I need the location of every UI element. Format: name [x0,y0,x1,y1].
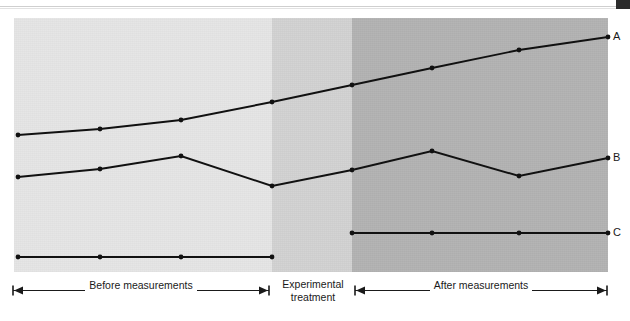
data-point [270,255,275,260]
data-point [270,184,275,189]
phase-annotations: Before measurements Experimental treatme… [0,278,630,321]
series-label-a: A [613,31,621,42]
figure-root: A B C Before measurements Ex [0,0,630,321]
data-point [16,133,21,138]
series-c [16,231,611,260]
data-point [606,156,611,161]
annotation-label-treatment: Experimental treatment [276,278,350,304]
annotation-after: After measurements [354,278,608,321]
data-point [350,231,355,236]
data-point [517,174,522,179]
data-point [179,255,184,260]
data-point [270,100,275,105]
series-label-b: B [613,152,621,163]
annotation-before: Before measurements [12,278,270,321]
data-point [430,149,435,154]
data-point [430,66,435,71]
data-point [98,255,103,260]
data-point [350,83,355,88]
annotation-treatment: Experimental treatment [276,278,350,321]
series-layer [0,0,630,321]
annotation-arrow-after [354,285,608,296]
data-point [16,255,21,260]
annotation-label-treatment-line1: Experimental [278,278,347,290]
data-point [606,231,611,236]
data-point [517,231,522,236]
data-point [98,127,103,132]
series-b-line-continuous [18,151,608,186]
data-point [350,168,355,173]
data-point [179,118,184,123]
data-point [16,175,21,180]
series-b [16,149,611,189]
data-point [98,167,103,172]
annotation-arrow-before [12,285,270,296]
data-point [430,231,435,236]
data-point [606,35,611,40]
data-point [517,48,522,53]
series-a [16,35,611,138]
series-label-c: C [613,227,621,238]
annotation-label-treatment-line2: treatment [276,291,350,304]
data-point [179,154,184,159]
